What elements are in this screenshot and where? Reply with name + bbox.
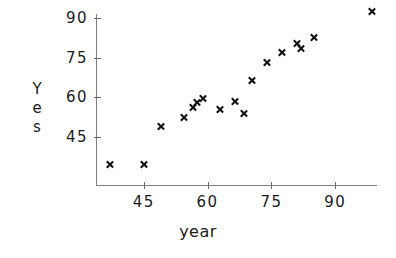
- data-point-marker: [180, 113, 189, 122]
- y-axis-tick: [94, 58, 101, 59]
- y-axis-tick-label: 75: [52, 49, 88, 67]
- y-axis-tick: [94, 137, 101, 138]
- data-point-marker: [199, 94, 208, 103]
- y-axis-title-letter: e: [26, 99, 48, 118]
- y-axis-tick-label: 60: [52, 88, 88, 106]
- data-point-marker: [216, 105, 225, 114]
- y-axis-tick-label: 45: [52, 128, 88, 146]
- data-point-marker: [263, 58, 272, 67]
- data-point-marker: [231, 97, 240, 106]
- x-axis-tick: [144, 182, 145, 189]
- data-point-marker: [248, 76, 257, 85]
- data-point-marker: [105, 160, 114, 169]
- y-axis-tick: [94, 18, 101, 19]
- data-point-marker: [310, 33, 319, 42]
- data-point-marker: [367, 7, 376, 16]
- y-axis-title-letter: Y: [26, 80, 48, 99]
- data-point-marker: [192, 98, 201, 107]
- scatter-plot-figure: 45607590 45607590 Yes year: [0, 0, 396, 258]
- x-axis-tick-label: 60: [188, 193, 228, 211]
- y-axis-title-letter: s: [26, 118, 48, 137]
- data-point-marker: [239, 109, 248, 118]
- data-point-marker: [297, 44, 306, 53]
- data-point-marker: [278, 48, 287, 57]
- x-axis-tick-label: 75: [251, 193, 291, 211]
- x-axis-tick-label: 45: [124, 193, 164, 211]
- x-axis-tick: [208, 182, 209, 189]
- x-axis-title: year: [0, 222, 396, 241]
- y-axis-line: [96, 14, 97, 186]
- x-axis-tick-label: 90: [315, 193, 355, 211]
- data-point-marker: [139, 160, 148, 169]
- y-axis-title: Yes: [26, 80, 48, 137]
- data-point-marker: [156, 122, 165, 131]
- y-axis-tick-label: 90: [52, 9, 88, 27]
- x-axis-tick: [335, 182, 336, 189]
- y-axis-tick: [94, 97, 101, 98]
- x-axis-tick: [271, 182, 272, 189]
- data-point-marker: [292, 39, 301, 48]
- data-point-marker: [188, 103, 197, 112]
